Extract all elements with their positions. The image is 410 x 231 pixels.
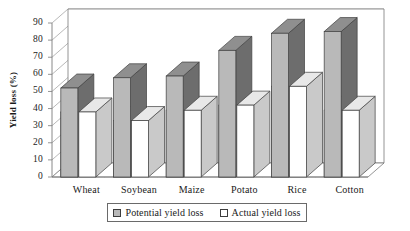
y-axis-tick-label: 70 — [21, 52, 43, 62]
y-axis-tick-label: 80 — [21, 35, 43, 45]
legend-item-actual: Actual yield loss — [220, 208, 301, 218]
y-axis-tick-label: 90 — [21, 18, 43, 28]
y-axis-tick-label: 10 — [21, 155, 43, 165]
legend-swatch-icon-actual — [220, 209, 228, 217]
plot-area — [0, 0, 410, 231]
y-axis-tick-label: 0 — [21, 172, 43, 182]
y-axis-tick-label: 50 — [21, 86, 43, 96]
y-axis-tick-label: 40 — [21, 104, 43, 114]
legend-label-potential: Potential yield loss — [125, 208, 203, 218]
chart-container: Yield loss (%) 9080706050403020100 Wheat… — [0, 0, 410, 231]
x-axis-tick-label: Cotton — [310, 185, 390, 195]
chart-legend: Potential yield loss Actual yield loss — [107, 203, 307, 222]
legend-item-potential: Potential yield loss — [113, 208, 203, 218]
y-axis-tick-label: 60 — [21, 69, 43, 79]
legend-label-actual: Actual yield loss — [232, 208, 301, 218]
legend-swatch-icon-potential — [113, 209, 121, 217]
y-axis-tick-label: 30 — [21, 121, 43, 131]
y-axis-tick-label: 20 — [21, 138, 43, 148]
